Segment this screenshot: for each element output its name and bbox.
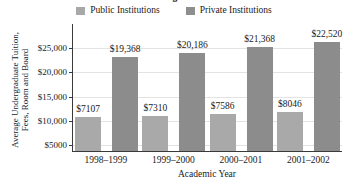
xtick-label: 1998–1999: [72, 155, 140, 165]
ytick-label-20000: $20,000: [38, 67, 67, 77]
legend-label-private: Private Institutions: [200, 6, 272, 16]
bar-value-label: $21,368: [244, 34, 275, 44]
bar-public[interactable]: $8046: [277, 112, 303, 151]
xtick-label: 2001–2002: [275, 155, 343, 165]
legend-swatch-public-icon: [76, 7, 85, 15]
x-axis-title: Academic Year: [72, 169, 342, 179]
bar-public[interactable]: $7586: [210, 114, 236, 151]
bar-group: $7107 $19,368: [73, 24, 140, 151]
ytick-label-10000: $10,000: [38, 116, 67, 126]
xtick-label: 1999–2000: [140, 155, 208, 165]
bar-public[interactable]: $7310: [142, 116, 168, 151]
bar-value-label: $19,368: [110, 44, 141, 54]
bar-chart: The Cost of Higher Education Public Inst…: [0, 0, 348, 185]
plot-area: $5000 $10,000 $15,000 $20,000 $25,000 $7…: [72, 24, 342, 152]
bar-groups: $7107 $19,368 $7310 $20,186 $7586: [73, 24, 342, 151]
chart-title: The Cost of Higher Education: [0, 0, 348, 2]
xtick-label: 2000–2001: [207, 155, 275, 165]
legend-swatch-private-icon: [186, 7, 195, 15]
bar-group: $8046 $22,520: [275, 24, 342, 151]
chart-legend: Public Institutions Private Institutions: [0, 6, 348, 16]
y-axis-title: Average Undergraduate Tuition, Fees, Roo…: [0, 24, 42, 156]
legend-label-public: Public Institutions: [90, 6, 159, 16]
bar-value-label: $8046: [278, 99, 302, 109]
ytick-label-5000: $5000: [45, 140, 68, 150]
legend-item-public: Public Institutions: [76, 6, 159, 16]
bar-group: $7586 $21,368: [208, 24, 275, 151]
bar-public[interactable]: $7107: [75, 117, 101, 151]
ytick-label-15000: $15,000: [38, 92, 67, 102]
legend-item-private: Private Institutions: [186, 6, 272, 16]
x-axis-tick-labels: 1998–1999 1999–2000 2000–2001 2001–2002: [72, 155, 342, 165]
bar-value-label: $7310: [144, 103, 168, 113]
bar-private[interactable]: $21,368: [247, 47, 273, 151]
bar-value-label: $7107: [76, 104, 100, 114]
bar-private[interactable]: $20,186: [179, 53, 205, 151]
bar-private[interactable]: $19,368: [112, 57, 138, 151]
ytick-label-25000: $25,000: [38, 43, 67, 53]
bar-value-label: $20,186: [177, 40, 208, 50]
bar-group: $7310 $20,186: [140, 24, 207, 151]
bar-value-label: $22,520: [311, 29, 342, 39]
bar-private[interactable]: $22,520: [314, 42, 340, 151]
bar-value-label: $7586: [211, 101, 235, 111]
